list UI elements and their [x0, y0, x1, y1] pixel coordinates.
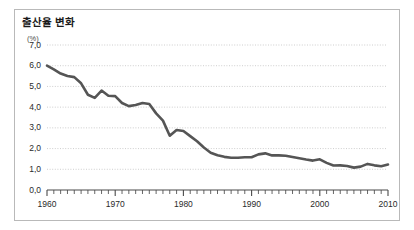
x-axis-tick-label: 2010 — [368, 199, 408, 209]
chart-figure: 출산율 변화 (%) 0,01,02,03,04,05,06,07,0 1960… — [0, 0, 414, 230]
x-axis-tick-label: 1960 — [27, 199, 67, 209]
x-axis-tick-label: 2000 — [300, 199, 340, 209]
data-line — [47, 66, 388, 168]
y-axis-tick-label: 0,0 — [17, 185, 41, 195]
y-axis-tick-label: 3,0 — [17, 122, 41, 132]
y-axis-tick-label: 7,0 — [17, 40, 41, 50]
x-axis-tick-label: 1980 — [163, 199, 203, 209]
y-axis-tick-label: 6,0 — [17, 60, 41, 70]
x-axis-tick-label: 1970 — [95, 199, 135, 209]
y-axis-tick-label: 2,0 — [17, 143, 41, 153]
page-title: 출산율 변화 — [22, 14, 75, 29]
x-axis-tick-label: 1990 — [232, 199, 272, 209]
data-series-group — [47, 66, 388, 168]
y-axis-tick-label: 4,0 — [17, 102, 41, 112]
plot-area — [47, 45, 388, 190]
line-chart-svg — [47, 45, 388, 190]
y-axis-tick-label: 5,0 — [17, 81, 41, 91]
gridlines-group — [47, 45, 386, 169]
y-axis-tick-label: 1,0 — [17, 164, 41, 174]
